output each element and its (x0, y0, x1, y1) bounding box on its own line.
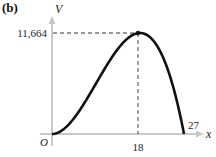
x-tick-max: 18 (133, 141, 145, 153)
chart: V x 11,664 18 27 O (0, 0, 216, 157)
y-tick-max: 11,664 (17, 27, 47, 39)
max-point (136, 31, 140, 35)
y-axis-arrow-icon (49, 16, 56, 24)
x-tick-root: 27 (188, 119, 200, 131)
origin-label: O (40, 136, 48, 148)
curve (52, 33, 184, 134)
x-axis-arrow-icon (196, 131, 204, 138)
y-axis-label: V (55, 2, 64, 16)
x-axis-label: x (205, 127, 212, 141)
